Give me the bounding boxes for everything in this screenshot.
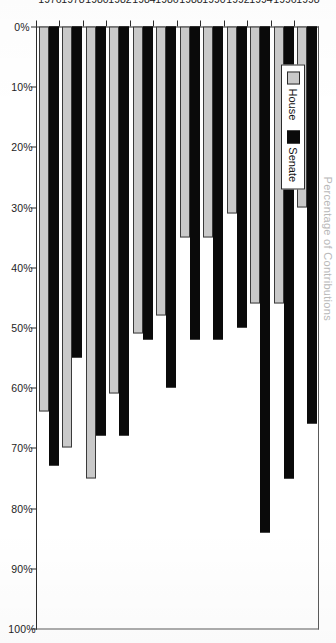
legend-label-senate: Senate [288,147,300,182]
bar-house-1990 [203,26,213,237]
category-axis-tick [295,20,296,26]
value-axis-label: 90% [0,562,45,574]
square-swatch-gray-icon [287,71,300,84]
category-axis-tick [83,20,84,26]
bar-senate-1978 [72,26,82,357]
bar-senate-1984 [143,26,153,339]
category-axis-tick [224,20,225,26]
bar-senate-1982 [119,26,129,435]
chart-rotation-stage: Percentage of Contributions 0%10%20%30%4… [0,0,336,643]
bar-senate-1998 [307,26,317,423]
category-axis-tick [154,20,155,26]
category-axis-tick [201,20,202,26]
bar-house-1976 [39,26,49,411]
chart-title: Percentage of Contributions [322,176,334,320]
bar-house-1984 [133,26,143,333]
bar-house-1992 [227,26,237,213]
bar-house-1978 [62,26,72,447]
chart-legend: House Senate [281,64,305,189]
bar-senate-1976 [49,26,59,465]
plot-frame-top-border [318,26,319,629]
legend-entry-house: House [287,71,300,120]
bar-senate-1992 [237,26,247,327]
bar-house-1994 [250,26,260,303]
value-axis-label: 100% [0,622,45,634]
scanned-page: Percentage of Contributions 0%10%20%30%4… [0,0,336,643]
category-axis-tick [60,20,61,26]
category-axis-tick [271,20,272,26]
category-axis-tick [107,20,108,26]
bar-house-1980 [86,26,96,478]
category-axis-tick [177,20,178,26]
category-axis-tick [130,20,131,26]
category-axis-tick [248,20,249,26]
bar-senate-1988 [190,26,200,339]
plot-frame-right-border [36,628,319,629]
category-axis-tick [36,20,37,26]
legend-label-house: House [288,88,300,120]
bar-house-1986 [156,26,166,315]
bar-house-1988 [180,26,190,237]
value-axis-label: 70% [0,441,45,453]
bar-house-1982 [109,26,119,393]
bar-senate-1980 [96,26,106,435]
category-axis-label-1998: 1998 [286,0,330,4]
bar-senate-1986 [166,26,176,387]
square-swatch-black-icon [287,130,300,143]
bar-senate-1994 [260,26,270,532]
value-axis-label: 80% [0,502,45,514]
legend-entry-senate: Senate [287,130,300,182]
bar-senate-1990 [213,26,223,339]
